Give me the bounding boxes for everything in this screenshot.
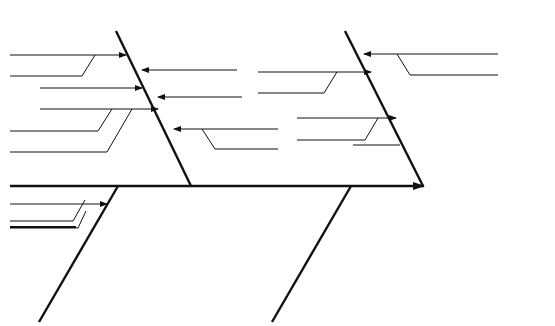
material-bone: [39, 186, 118, 322]
fishbone-diagram: [0, 0, 555, 326]
method-bone: [272, 186, 351, 322]
